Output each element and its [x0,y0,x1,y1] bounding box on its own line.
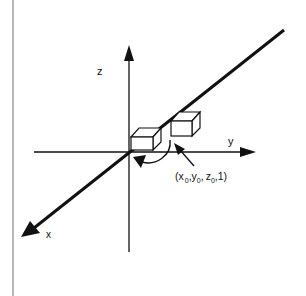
y-axis-label: y [228,135,234,147]
x-axis-label: x [46,229,51,240]
y-axis-arrow-icon [240,147,256,157]
cube-translated [171,112,200,136]
cube-origin [131,128,161,150]
rotation-diagram: z y x (x0,y0,z0,1) [0,0,306,296]
z-axis-arrow-icon [124,45,134,61]
rotation-arrow-head-icon [133,155,146,168]
point-pointer-arrow [174,143,194,166]
x-axis-arrow-icon [21,221,40,237]
z-axis-label: z [97,65,103,77]
point-coordinate-label: (x0,y0,z0,1) [175,170,227,184]
